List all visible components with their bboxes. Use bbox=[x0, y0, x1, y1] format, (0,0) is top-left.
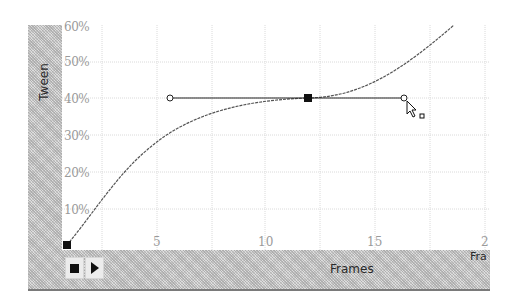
x-label-15: 15 bbox=[367, 235, 382, 249]
y-axis-title: Tween bbox=[33, 62, 55, 102]
keyframe-middle[interactable] bbox=[304, 94, 312, 102]
y-label-60: 60% bbox=[64, 20, 89, 34]
x-label-5: 5 bbox=[153, 235, 161, 249]
y-label-40: 40% bbox=[64, 92, 89, 106]
y-label-20: 20% bbox=[64, 166, 89, 180]
x-label-10: 10 bbox=[258, 235, 273, 249]
stop-button[interactable] bbox=[65, 257, 84, 279]
stop-icon bbox=[70, 264, 79, 273]
y-label-10: 10% bbox=[64, 203, 89, 217]
bezier-handle-left[interactable] bbox=[167, 95, 173, 101]
x-axis-title-overflow: Fra bbox=[470, 250, 490, 263]
panel-bottom-border bbox=[28, 289, 490, 291]
play-icon bbox=[91, 262, 99, 274]
x-axis-title: Frames bbox=[330, 262, 374, 276]
tween-graph[interactable] bbox=[62, 25, 490, 250]
keyframe-start[interactable] bbox=[63, 241, 71, 249]
y-label-50: 50% bbox=[64, 55, 89, 69]
move-cursor-icon bbox=[405, 100, 427, 122]
play-button[interactable] bbox=[85, 257, 104, 279]
grid bbox=[62, 25, 490, 250]
y-label-30: 30% bbox=[64, 129, 89, 143]
x-label-20: 2 bbox=[481, 235, 489, 249]
